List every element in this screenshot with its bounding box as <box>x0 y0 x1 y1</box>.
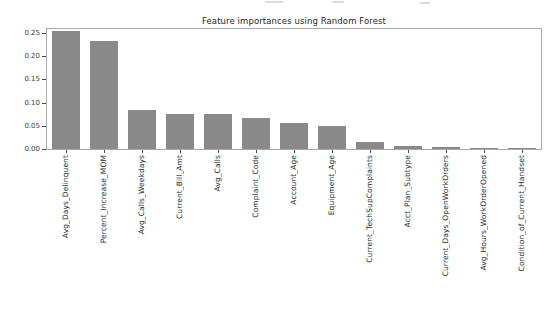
y-tick-mark <box>42 33 46 34</box>
x-tick-mark <box>522 150 523 153</box>
bar <box>318 126 346 149</box>
x-tick-label: Percent_Increase_MOM <box>99 155 109 243</box>
y-tick-label: 0.20 <box>10 51 40 61</box>
figure: Feature importances using Random Forest … <box>0 0 560 312</box>
x-tick-mark <box>104 150 105 153</box>
x-tick-mark <box>180 150 181 153</box>
x-tick-mark <box>446 150 447 153</box>
x-tick-label: Equipment_Age <box>327 155 337 215</box>
bar <box>356 142 384 149</box>
x-tick-label: Current_Bill_Amt <box>175 155 185 219</box>
x-tick-label: Avg_Days_Delinquent <box>61 155 71 238</box>
bar <box>432 147 460 149</box>
x-tick-mark <box>370 150 371 153</box>
x-tick-label: Condition_of_Current_Handset <box>517 155 527 271</box>
bar <box>90 41 118 149</box>
x-tick-mark <box>408 150 409 153</box>
y-tick-label: 0.15 <box>10 74 40 84</box>
bar <box>394 146 422 149</box>
x-tick-label: Avg_Calls <box>213 155 223 191</box>
y-tick-mark <box>42 103 46 104</box>
cropped-content-artifact <box>420 2 430 4</box>
y-tick-label: 0.00 <box>10 144 40 154</box>
bar <box>280 123 308 149</box>
x-tick-label: Avg_Calls_Weekdays <box>137 155 147 234</box>
bar <box>204 114 232 149</box>
x-tick-label: Current_TechSupComplaints <box>365 155 375 263</box>
bar <box>470 148 498 149</box>
bar <box>508 148 536 149</box>
x-tick-label: Acct_Plan_Subtype <box>403 155 413 227</box>
x-tick-mark <box>66 150 67 153</box>
x-tick-mark <box>256 150 257 153</box>
y-tick-mark <box>42 56 46 57</box>
bar <box>166 114 194 149</box>
y-tick-label: 0.05 <box>10 121 40 131</box>
x-tick-mark <box>484 150 485 153</box>
y-tick-mark <box>42 79 46 80</box>
bar <box>128 110 156 149</box>
bar <box>52 31 80 149</box>
y-tick-mark <box>42 149 46 150</box>
x-tick-mark <box>142 150 143 153</box>
bar <box>242 118 270 149</box>
x-tick-label: Avg_Hours_WorkOrderOpened <box>479 155 489 271</box>
x-tick-mark <box>294 150 295 153</box>
y-tick-label: 0.25 <box>10 28 40 38</box>
y-tick-label: 0.10 <box>10 98 40 108</box>
x-tick-mark <box>332 150 333 153</box>
cropped-content-artifact <box>332 1 344 3</box>
x-tick-label: Current_Days_OpenWorkOrders <box>441 155 451 276</box>
chart-title: Feature importances using Random Forest <box>46 16 542 26</box>
x-tick-mark <box>218 150 219 153</box>
x-tick-label: Account_Age <box>289 155 299 205</box>
x-tick-label: Complaint_Code <box>251 155 261 218</box>
y-tick-mark <box>42 126 46 127</box>
cropped-content-artifact <box>265 1 283 3</box>
